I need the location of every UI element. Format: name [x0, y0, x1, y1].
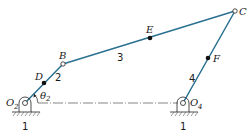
label-e: E — [145, 24, 154, 35]
label-theta-sub: 2 — [45, 95, 51, 103]
label-d: D — [34, 71, 43, 82]
label-b: B — [58, 50, 66, 61]
label-o2-sub: 2 — [13, 103, 19, 111]
label-ground-1-right: 1 — [180, 121, 186, 132]
joint-c-icon — [233, 9, 237, 13]
label-o4-sub: 4 — [197, 103, 202, 111]
label-o4: O — [190, 97, 198, 108]
label-f: F — [212, 53, 221, 64]
point-f-icon — [206, 56, 211, 61]
point-e-icon — [148, 36, 153, 41]
four-bar-linkage-diagram: O 2 D B E C F O 4 2 3 4 θ 2 1 1 — [0, 0, 249, 139]
label-link-2: 2 — [55, 72, 61, 83]
label-o2: O — [6, 97, 14, 108]
label-link-3: 3 — [117, 52, 123, 63]
joint-b-icon — [61, 62, 65, 66]
label-c: C — [239, 6, 247, 17]
label-link-4: 4 — [189, 73, 195, 84]
label-ground-1-left: 1 — [22, 121, 28, 132]
